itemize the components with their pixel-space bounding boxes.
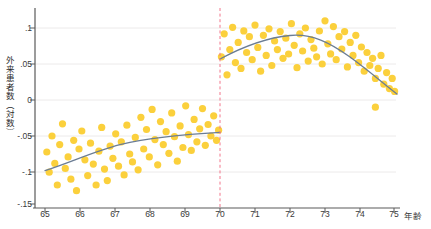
x-tick-label: 71 [250,209,259,219]
x-tick-label: 72 [285,209,294,219]
x-tick-label: 73 [320,209,329,219]
figure-title [22,0,222,7]
x-tick-label: 66 [75,209,84,219]
x-axis-label: 年齢 [404,209,422,221]
y-tick-label: 0 [8,95,32,105]
plot-canvas [0,0,431,229]
y-tick-label: -.15 [8,199,32,209]
axis-spines [30,8,400,213]
x-tick-label: 69 [180,209,189,219]
scatter-points-left [43,102,222,194]
rd-scatter-figure: 外来患者数（対数） .1 .05 0 -.05 -.1 -.15 [0,0,431,229]
x-axis-tick-labels: 65 66 67 68 69 70 71 72 73 74 75 年齢 [0,209,431,227]
x-tick-label: 74 [355,209,364,219]
y-axis-tick-labels: .1 .05 0 -.05 -.1 -.15 [0,0,32,229]
y-tick-label: -.1 [8,167,32,177]
x-tick-label: 70 [215,209,224,219]
y-tick-label: .05 [8,59,32,69]
x-tick-label: 75 [389,209,398,219]
x-tick-label: 65 [40,209,49,219]
x-tick-label: 67 [110,209,119,219]
y-tick-label: .1 [8,23,32,33]
x-tick-label: 68 [145,209,154,219]
y-tick-label: -.05 [8,131,32,141]
